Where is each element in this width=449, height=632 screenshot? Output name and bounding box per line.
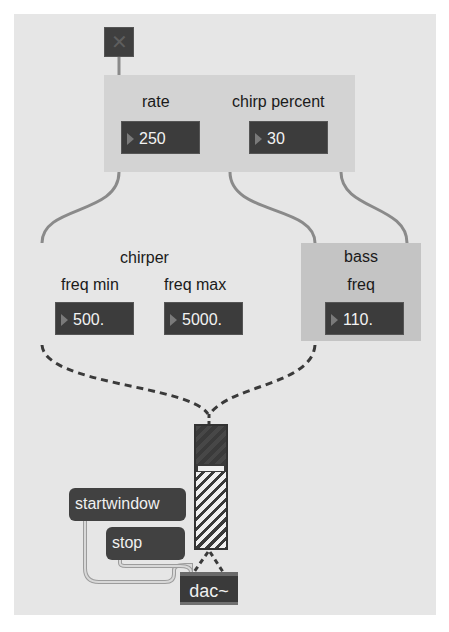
cord-chirper-meter [42, 345, 208, 414]
cord-bass-meter [210, 345, 315, 414]
freq-max-number-box[interactable]: 5000. [164, 302, 243, 335]
bass-panel: bass freq 110. [301, 243, 421, 341]
dac-object[interactable]: dac~ [180, 572, 238, 605]
cord-meter-dac-left [194, 552, 208, 572]
number-arrow-icon [127, 133, 134, 145]
number-arrow-icon [331, 314, 338, 326]
rate-label: rate [142, 93, 170, 111]
cord-chirp-bass [230, 172, 315, 243]
freq-max-label: freq max [164, 276, 226, 294]
chirp-percent-label: chirp percent [232, 93, 325, 111]
rate-number-box[interactable]: 250 [121, 121, 200, 154]
cord-meter-dac-right [210, 552, 223, 572]
freq-min-label: freq min [61, 276, 119, 294]
control-panel: rate chirp percent 250 30 [104, 75, 355, 172]
number-arrow-icon [255, 133, 262, 145]
bass-freq-label: freq [301, 276, 421, 294]
chirp-percent-number-box[interactable]: 30 [249, 121, 328, 154]
cord-rate-chirper [42, 172, 119, 243]
bass-title: bass [301, 248, 421, 266]
number-arrow-icon [170, 314, 177, 326]
x-mark-icon: ✕ [105, 28, 133, 56]
number-arrow-icon [61, 314, 68, 326]
level-meter[interactable] [194, 424, 228, 550]
startwindow-message[interactable]: startwindow [69, 488, 186, 521]
freq-min-number-box[interactable]: 500. [55, 302, 134, 335]
cord-panel-bass [341, 172, 407, 243]
toggle-button[interactable]: ✕ [104, 27, 134, 57]
bass-freq-number-box[interactable]: 110. [325, 302, 404, 335]
cord-stop-dac [120, 559, 191, 572]
chirper-title: chirper [120, 249, 169, 267]
stop-message[interactable]: stop [106, 527, 185, 560]
chirper-panel: chirper freq min freq max 500. 5000. [38, 243, 296, 341]
